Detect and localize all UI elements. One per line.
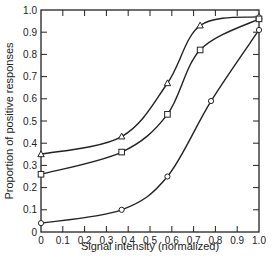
x-axis-label: Signal intensity (normalized) [81,240,219,252]
square-marker [38,171,44,177]
y-tick-label: 0.7 [23,71,37,82]
tick-labels: 00.10.20.30.40.50.60.70.80.91.000.10.20.… [23,5,266,247]
x-tick-label: 0 [38,235,44,246]
circle-marker [119,207,124,212]
circle-marker [256,27,261,32]
triangle-marker [118,133,124,139]
y-tick-label: 0.6 [23,93,37,104]
curve-circle [41,30,259,223]
x-tick-label: 0.1 [56,235,70,246]
circle-marker [208,98,213,103]
y-tick-label: 0.9 [23,27,37,38]
x-tick-label: 0.9 [230,235,244,246]
y-tick-label: 0.2 [23,182,37,193]
plot-frame [41,10,259,232]
square-marker [256,16,262,22]
triangle-marker [197,22,203,28]
psychometric-chart: 00.10.20.30.40.50.60.70.80.91.000.10.20.… [0,0,274,263]
y-tick-label: 0.3 [23,160,37,171]
curve-square [41,19,259,174]
circle-marker [38,221,43,226]
data-curves [41,17,259,223]
axis-ticks [41,10,259,232]
y-tick-label: 0.4 [23,138,37,149]
y-axis-label: Proportion of positive responses [3,42,15,200]
y-tick-label: 0.1 [23,204,37,215]
y-tick-label: 0.8 [23,49,37,60]
y-tick-label: 0 [31,227,37,238]
y-tick-label: 1.0 [23,5,37,16]
x-tick-label: 1.0 [252,235,266,246]
circle-marker [165,174,170,179]
square-marker [119,149,125,155]
y-tick-label: 0.5 [23,116,37,127]
square-marker [165,112,171,118]
square-marker [197,47,203,53]
